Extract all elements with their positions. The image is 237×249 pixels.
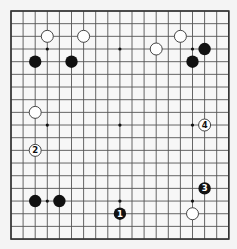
white-stone-icon — [150, 43, 162, 55]
white-stone-icon — [78, 30, 90, 42]
black-stone-move-1: 1 — [114, 208, 126, 220]
white-stone — [29, 106, 41, 118]
black-stone — [186, 55, 198, 67]
hoshi-point-icon — [191, 123, 194, 126]
black-stone-icon — [198, 43, 210, 55]
black-stone — [53, 195, 65, 207]
black-stone-icon — [186, 55, 198, 67]
white-stone — [150, 43, 162, 55]
black-stone — [29, 195, 41, 207]
hoshi-point-icon — [46, 47, 49, 50]
move-number-label: 1 — [117, 209, 123, 219]
move-number-label: 3 — [202, 183, 208, 193]
black-stone — [65, 55, 77, 67]
black-stone-icon — [65, 55, 77, 67]
hoshi-point-icon — [118, 199, 121, 202]
white-stone — [41, 30, 53, 42]
white-stone — [187, 208, 199, 220]
hoshi-point-icon — [118, 47, 121, 50]
white-stone-icon — [187, 208, 199, 220]
black-stone-icon — [53, 195, 65, 207]
white-stone — [78, 30, 90, 42]
white-stone-icon — [41, 30, 53, 42]
black-stone — [29, 55, 41, 67]
black-stone-icon — [29, 55, 41, 67]
hoshi-point-icon — [118, 123, 121, 126]
hoshi-point-icon — [191, 199, 194, 202]
black-stone — [198, 43, 210, 55]
hoshi-point-icon — [46, 123, 49, 126]
white-stone-icon — [174, 30, 186, 42]
white-stone-move-2: 2 — [29, 144, 41, 156]
white-stone — [174, 30, 186, 42]
go-board: 2413 — [0, 0, 237, 249]
black-stone-move-3: 3 — [198, 182, 210, 194]
hoshi-point-icon — [191, 47, 194, 50]
move-number-label: 4 — [202, 120, 208, 130]
white-stone-move-4: 4 — [199, 119, 211, 131]
move-number-label: 2 — [32, 145, 38, 155]
black-stone-icon — [29, 195, 41, 207]
white-stone-icon — [29, 106, 41, 118]
hoshi-point-icon — [46, 199, 49, 202]
